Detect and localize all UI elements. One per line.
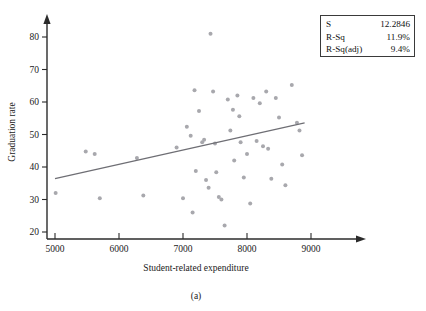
legend-row: R-Sq(adj) 9.4% bbox=[326, 43, 410, 56]
data-point bbox=[255, 139, 259, 143]
data-point bbox=[189, 134, 193, 138]
data-point bbox=[98, 196, 102, 200]
data-point bbox=[175, 146, 179, 150]
data-point bbox=[237, 114, 241, 118]
data-point bbox=[93, 152, 97, 156]
y-tick-label: 30 bbox=[30, 195, 40, 205]
data-point bbox=[202, 138, 206, 142]
figure-caption: (a) bbox=[191, 291, 202, 302]
data-point bbox=[283, 183, 287, 187]
x-tick-label: 5000 bbox=[46, 244, 65, 254]
data-point bbox=[235, 94, 239, 98]
legend-label-rsq: R-Sq bbox=[326, 31, 345, 44]
legend-row: R-Sq 11.9% bbox=[326, 31, 410, 44]
data-point bbox=[193, 88, 197, 92]
y-tick-label: 20 bbox=[30, 227, 40, 237]
data-point bbox=[269, 177, 273, 181]
data-point bbox=[228, 129, 232, 133]
x-axis-arrow bbox=[356, 235, 366, 242]
x-tick-label: 9000 bbox=[302, 244, 321, 254]
y-tick-label: 80 bbox=[30, 32, 40, 42]
data-point bbox=[185, 125, 189, 129]
data-point bbox=[251, 96, 255, 100]
data-point bbox=[54, 191, 58, 195]
data-point bbox=[191, 211, 195, 215]
legend-row: S 12.2846 bbox=[326, 18, 410, 31]
legend-label-s: S bbox=[326, 18, 331, 31]
data-point bbox=[239, 140, 243, 144]
data-point bbox=[194, 169, 198, 173]
data-point bbox=[231, 108, 235, 112]
data-point bbox=[219, 198, 223, 202]
data-point bbox=[223, 224, 227, 228]
statistics-legend: S 12.2846 R-Sq 11.9% R-Sq(adj) 9.4% bbox=[320, 15, 415, 57]
data-point bbox=[274, 96, 278, 100]
data-point bbox=[135, 156, 139, 160]
y-tick-label: 50 bbox=[30, 130, 40, 140]
regression-line bbox=[55, 123, 305, 179]
y-axis-ticks: 20304050607080 bbox=[30, 32, 48, 237]
data-point bbox=[141, 194, 145, 198]
data-point bbox=[211, 90, 215, 94]
y-axis-label: Graduation rate bbox=[7, 102, 17, 161]
data-point bbox=[204, 178, 208, 182]
legend-value-rsqadj: 9.4% bbox=[391, 43, 410, 56]
data-point bbox=[245, 152, 249, 156]
data-point bbox=[232, 159, 236, 163]
data-point bbox=[297, 129, 301, 133]
data-point bbox=[277, 116, 281, 120]
data-point bbox=[226, 97, 230, 101]
x-tick-label: 8000 bbox=[238, 244, 257, 254]
data-point bbox=[214, 170, 218, 174]
x-axis-label: Student-related expenditure bbox=[143, 263, 248, 273]
data-point bbox=[84, 149, 88, 153]
data-point bbox=[248, 201, 252, 205]
data-point bbox=[209, 32, 213, 36]
data-point bbox=[242, 175, 246, 179]
legend-label-rsqadj: R-Sq(adj) bbox=[326, 43, 362, 56]
data-points bbox=[54, 32, 304, 228]
y-tick-label: 70 bbox=[30, 65, 40, 75]
data-point bbox=[207, 186, 211, 190]
data-point bbox=[300, 153, 304, 157]
figure-panel: 20304050607080 50006000700080009000 Grad… bbox=[0, 0, 426, 311]
y-axis-arrow bbox=[43, 14, 50, 24]
x-tick-label: 6000 bbox=[110, 244, 129, 254]
data-point bbox=[197, 109, 201, 113]
legend-value-s: 12.2846 bbox=[380, 18, 410, 31]
data-point bbox=[264, 90, 268, 94]
data-point bbox=[261, 144, 265, 148]
x-axis-ticks: 50006000700080009000 bbox=[46, 233, 321, 254]
data-point bbox=[280, 162, 284, 166]
data-point bbox=[266, 147, 270, 151]
data-point bbox=[290, 83, 294, 87]
y-tick-label: 40 bbox=[30, 162, 40, 172]
data-point bbox=[258, 101, 262, 105]
y-tick-label: 60 bbox=[30, 97, 40, 107]
data-point bbox=[181, 196, 185, 200]
legend-value-rsq: 11.9% bbox=[387, 31, 410, 44]
x-tick-label: 7000 bbox=[174, 244, 193, 254]
